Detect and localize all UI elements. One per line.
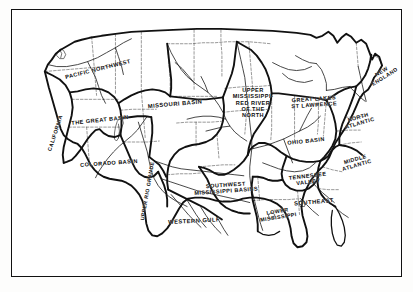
map-drawing-canvas bbox=[12, 10, 401, 276]
map-border-frame: PACIFIC NORTHWESTCALIFORNIATHE GREAT BAS… bbox=[11, 9, 402, 277]
water-resource-regions-map-figure: PACIFIC NORTHWESTCALIFORNIATHE GREAT BAS… bbox=[0, 0, 413, 292]
map-ink-layer bbox=[45, 29, 382, 247]
